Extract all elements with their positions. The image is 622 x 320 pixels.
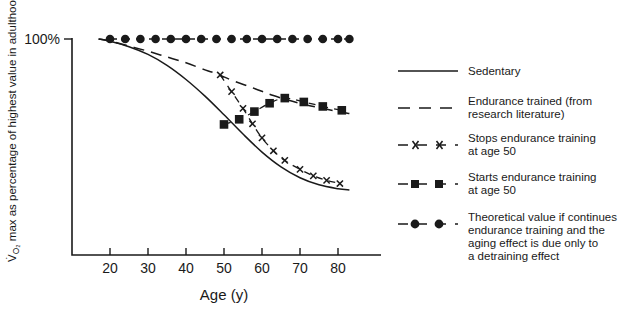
legend-marker-circle-2 xyxy=(435,220,444,229)
series-line xyxy=(99,39,350,190)
data-point-square xyxy=(338,106,347,115)
series-none-0 xyxy=(99,39,350,190)
data-point-x xyxy=(229,89,235,95)
data-point-circle xyxy=(212,35,221,44)
axis-frame xyxy=(72,38,381,255)
series-circle-4 xyxy=(106,35,354,44)
data-point-circle xyxy=(151,35,160,44)
x-ticklabel-70: 70 xyxy=(292,260,308,276)
legend-label-endurance-trained-line1: Endurance trained (from xyxy=(468,95,592,107)
data-point-circle xyxy=(182,35,191,44)
data-point-circle xyxy=(288,35,297,44)
series-line xyxy=(99,39,350,114)
svg-text:V̇O₂ max as percentage of high: V̇O₂ max as percentage of highest value … xyxy=(6,0,21,262)
data-point-circle xyxy=(319,35,328,44)
legend-item-endurance-trained[interactable]: Endurance trained (from research literat… xyxy=(398,95,592,120)
data-point-circle xyxy=(334,35,343,44)
legend-label-stops-training-line1: Stops endurance training xyxy=(468,132,596,144)
legend-label-theoretical-line2: endurance training and the xyxy=(468,224,605,236)
legend-label-theoretical-line4: a detraining effect xyxy=(468,250,560,262)
data-point-circle xyxy=(106,35,115,44)
data-point-circle xyxy=(197,35,206,44)
legend: Sedentary Endurance trained (from resear… xyxy=(398,65,617,262)
series-layer xyxy=(99,35,354,190)
data-point-square xyxy=(265,99,274,108)
x-axis-title: Age (y) xyxy=(200,286,248,303)
legend-label-theoretical-line1: Theoretical value if continues xyxy=(468,211,617,223)
legend-marker-square-2 xyxy=(435,180,443,188)
data-point-circle xyxy=(227,35,236,44)
legend-label-starts-training-line1: Starts endurance training xyxy=(468,171,597,183)
data-point-circle xyxy=(121,35,130,44)
series-square-3 xyxy=(220,94,346,129)
y-axis-label-rest: max as percentage of highest value in ad… xyxy=(6,0,18,244)
legend-item-stops-training[interactable]: Stops endurance training at age 50 xyxy=(398,132,596,157)
data-point-x xyxy=(259,135,265,141)
data-point-x xyxy=(270,148,276,154)
x-ticklabel-40: 40 xyxy=(178,260,194,276)
legend-item-sedentary[interactable]: Sedentary xyxy=(398,65,521,77)
legend-label-sedentary: Sedentary xyxy=(468,65,521,77)
data-point-x xyxy=(297,166,303,172)
data-point-x xyxy=(217,72,223,78)
data-point-circle xyxy=(167,35,176,44)
data-point-circle xyxy=(136,35,145,44)
data-point-square xyxy=(281,94,290,103)
legend-marker-square-1 xyxy=(411,180,419,188)
data-point-x xyxy=(337,180,343,186)
axes: 100% 20 30 40 50 60 70 80 Age (y) xyxy=(24,31,381,303)
x-ticklabel-50: 50 xyxy=(216,260,232,276)
x-ticklabel-20: 20 xyxy=(102,260,118,276)
data-point-circle xyxy=(273,35,282,44)
legend-label-theoretical-line3: aging effect is due only to xyxy=(468,237,598,249)
data-point-square xyxy=(300,98,309,107)
legend-label-starts-training-line2: at age 50 xyxy=(468,184,516,196)
x-ticklabel-80: 80 xyxy=(330,260,346,276)
x-ticklabel-30: 30 xyxy=(140,260,156,276)
data-point-x xyxy=(249,121,255,127)
data-point-circle xyxy=(303,35,312,44)
y-axis-label: V̇O₂ max as percentage of highest value … xyxy=(6,0,21,262)
legend-item-theoretical[interactable]: Theoretical value if continues endurance… xyxy=(398,211,617,262)
data-point-circle xyxy=(243,35,252,44)
data-point-square xyxy=(319,102,328,111)
data-point-x xyxy=(282,157,288,163)
data-point-square xyxy=(220,120,229,129)
data-point-x xyxy=(310,173,316,179)
data-point-circle xyxy=(345,35,354,44)
legend-item-starts-training[interactable]: Starts endurance training at age 50 xyxy=(398,171,597,196)
y-ticklabel-100: 100% xyxy=(24,31,60,47)
chart-figure: V̇O₂ max as percentage of highest value … xyxy=(0,0,622,320)
data-point-x xyxy=(240,105,246,111)
series-none-1 xyxy=(99,39,350,114)
data-point-square xyxy=(235,115,244,124)
series-x-2 xyxy=(217,72,343,187)
data-point-circle xyxy=(258,35,267,44)
legend-marker-circle-1 xyxy=(411,220,420,229)
legend-label-endurance-trained-line2: research literature) xyxy=(468,108,565,120)
data-point-square xyxy=(250,107,259,116)
chart-svg: V̇O₂ max as percentage of highest value … xyxy=(0,0,622,320)
legend-label-stops-training-line2: at age 50 xyxy=(468,145,516,157)
x-ticklabel-60: 60 xyxy=(254,260,270,276)
